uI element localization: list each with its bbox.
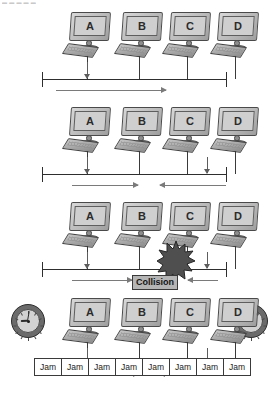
station-b: B bbox=[116, 298, 164, 360]
monitor-d: D bbox=[217, 12, 259, 41]
station-c: C bbox=[164, 298, 212, 360]
monitor-screen-d: D bbox=[221, 302, 254, 322]
bus-line bbox=[42, 174, 227, 175]
station-c: C bbox=[164, 12, 212, 74]
monitor-screen-a: A bbox=[73, 206, 106, 226]
monitor-a: A bbox=[69, 202, 111, 231]
station-a: A bbox=[64, 202, 112, 264]
transmit-arrow-d bbox=[207, 252, 208, 268]
jam-cell: Jam bbox=[61, 358, 89, 376]
jam-cell: Jam bbox=[34, 358, 62, 376]
drop-line-c bbox=[187, 56, 188, 79]
monitor-screen-b: B bbox=[125, 111, 158, 131]
signal-arrow-rightward bbox=[72, 280, 132, 281]
station-label-b: B bbox=[138, 211, 146, 222]
station-label-d: D bbox=[234, 116, 242, 127]
bus-terminator-right bbox=[226, 72, 227, 87]
station-label-b: B bbox=[138, 21, 146, 32]
bus-terminator-left bbox=[42, 167, 43, 182]
monitor-c: C bbox=[169, 298, 211, 327]
transmit-arrow-d bbox=[207, 157, 208, 173]
drop-line-b bbox=[139, 151, 140, 174]
drop-line-d bbox=[235, 151, 236, 174]
jam-cell: Jam bbox=[223, 358, 251, 376]
station-label-b: B bbox=[138, 116, 146, 127]
jam-cell: Jam bbox=[169, 358, 197, 376]
monitor-d: D bbox=[217, 107, 259, 136]
monitor-screen-b: B bbox=[125, 16, 158, 36]
jam-cell: Jam bbox=[115, 358, 143, 376]
monitor-b: B bbox=[121, 202, 163, 231]
monitor-c: C bbox=[169, 202, 211, 231]
bus-terminator-right bbox=[226, 262, 227, 277]
monitor-screen-d: D bbox=[221, 16, 254, 36]
station-label-d: D bbox=[234, 211, 242, 222]
collision-label: Collision bbox=[132, 275, 178, 290]
station-b: B bbox=[116, 12, 164, 74]
monitor-d: D bbox=[217, 298, 259, 327]
transmit-arrow-a bbox=[87, 157, 88, 173]
station-c: C bbox=[164, 107, 212, 169]
monitor-c: C bbox=[169, 107, 211, 136]
station-label-a: A bbox=[86, 307, 94, 318]
monitor-screen-c: C bbox=[173, 111, 206, 131]
monitor-screen-c: C bbox=[173, 302, 206, 322]
station-a: A bbox=[64, 12, 112, 74]
station-label-a: A bbox=[86, 211, 94, 222]
monitor-screen-b: B bbox=[125, 206, 158, 226]
transmit-arrow-a bbox=[87, 62, 88, 78]
signal-arrow-rightward bbox=[72, 185, 138, 186]
monitor-a: A bbox=[69, 298, 111, 327]
monitor-screen-a: A bbox=[73, 302, 106, 322]
panel-4-jam-signal: A B C bbox=[0, 292, 279, 393]
monitor-screen-a: A bbox=[73, 16, 106, 36]
diagram-canvas: ▬ ▬ ▬ ▬ ▬ A B bbox=[0, 0, 279, 393]
drop-line-c bbox=[187, 151, 188, 174]
bus-terminator-right bbox=[226, 167, 227, 182]
station-label-b: B bbox=[138, 307, 146, 318]
station-label-c: C bbox=[186, 211, 194, 222]
monitor-b: B bbox=[121, 12, 163, 41]
bus-terminator-left bbox=[42, 72, 43, 87]
drop-line-b bbox=[139, 246, 140, 269]
station-label-d: D bbox=[234, 21, 242, 32]
clock-left-icon bbox=[11, 304, 45, 338]
monitor-screen-a: A bbox=[73, 111, 106, 131]
drop-line-d bbox=[235, 56, 236, 79]
bus-line bbox=[42, 269, 227, 270]
monitor-a: A bbox=[69, 107, 111, 136]
panel-1-transmission-start: A B C bbox=[0, 6, 279, 96]
jam-cell: Jam bbox=[142, 358, 170, 376]
monitor-b: B bbox=[121, 107, 163, 136]
monitor-d: D bbox=[217, 202, 259, 231]
station-d: D bbox=[212, 107, 260, 169]
drop-line-b bbox=[139, 56, 140, 79]
jam-cell: Jam bbox=[88, 358, 116, 376]
station-label-a: A bbox=[86, 116, 94, 127]
station-label-c: C bbox=[186, 21, 194, 32]
drop-line-d bbox=[235, 246, 236, 269]
monitor-screen-c: C bbox=[173, 206, 206, 226]
jam-signal-row: Jam Jam Jam Jam Jam Jam Jam Jam bbox=[34, 358, 251, 376]
monitor-screen-b: B bbox=[125, 302, 158, 322]
signal-arrow-leftward bbox=[160, 185, 226, 186]
station-d: D bbox=[212, 12, 260, 74]
station-label-d: D bbox=[234, 307, 242, 318]
panel-3-collision: A B C bbox=[0, 196, 279, 292]
station-b: B bbox=[116, 107, 164, 169]
station-label-c: C bbox=[186, 116, 194, 127]
monitor-c: C bbox=[169, 12, 211, 41]
station-label-c: C bbox=[186, 307, 194, 318]
clock-left-pin bbox=[27, 320, 30, 323]
transmit-arrow-a bbox=[87, 252, 88, 268]
panel-2-both-transmit: A B C bbox=[0, 101, 279, 191]
monitor-screen-c: C bbox=[173, 16, 206, 36]
clock-left-face bbox=[16, 309, 40, 333]
bus-line bbox=[42, 79, 227, 80]
station-d: D bbox=[212, 202, 260, 264]
station-label-a: A bbox=[86, 21, 94, 32]
monitor-b: B bbox=[121, 298, 163, 327]
station-a: A bbox=[64, 107, 112, 169]
monitor-screen-d: D bbox=[221, 111, 254, 131]
station-d: D bbox=[212, 298, 260, 360]
